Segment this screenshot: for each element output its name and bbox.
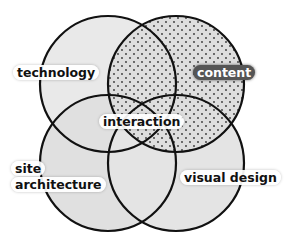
label-visual-design: visual design <box>180 170 281 185</box>
label-architecture: architecture <box>11 177 106 192</box>
label-interaction: interaction <box>99 114 184 129</box>
label-technology: technology <box>13 65 99 80</box>
label-content: content <box>193 65 255 80</box>
label-site: site <box>11 161 45 176</box>
